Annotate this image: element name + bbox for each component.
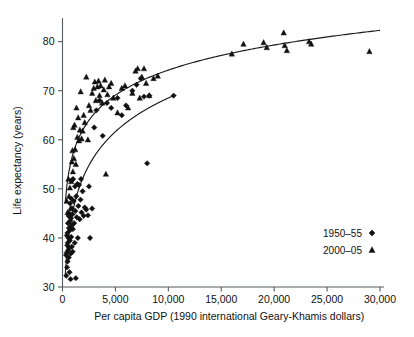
series-2000-05 bbox=[64, 30, 372, 215]
data-point-diamond bbox=[171, 93, 176, 98]
data-point-diamond bbox=[85, 213, 90, 218]
y-tick-label: 30 bbox=[43, 281, 55, 293]
data-point-triangle bbox=[122, 83, 127, 88]
data-point-diamond bbox=[80, 189, 85, 194]
data-point-triangle bbox=[141, 66, 146, 71]
scatter-chart-figure: 304050607080 05,00010,00015,00020,00025,… bbox=[0, 0, 414, 337]
data-point-diamond bbox=[75, 235, 80, 240]
data-point-triangle bbox=[84, 74, 89, 79]
data-point-triangle bbox=[86, 102, 91, 107]
data-point-triangle bbox=[281, 30, 286, 35]
data-point-triangle bbox=[98, 83, 103, 88]
data-point-triangle bbox=[85, 137, 90, 142]
data-point-diamond bbox=[73, 275, 78, 280]
data-point-triangle bbox=[89, 90, 94, 95]
data-point-triangle bbox=[284, 47, 289, 52]
data-point-diamond bbox=[144, 161, 149, 166]
data-point-diamond bbox=[134, 82, 139, 87]
chart-legend: 1950–552000–05 bbox=[323, 228, 375, 256]
data-point-triangle bbox=[74, 105, 79, 110]
x-tick-label: 25,000 bbox=[311, 293, 343, 305]
data-point-triangle bbox=[367, 48, 372, 53]
data-point-triangle bbox=[66, 193, 71, 198]
data-point-triangle bbox=[75, 115, 80, 120]
x-tick-label: 5,000 bbox=[102, 293, 128, 305]
legend-label-2000-05: 2000–05 bbox=[323, 245, 362, 256]
x-tick-label: 0 bbox=[60, 293, 66, 305]
data-point-triangle bbox=[88, 107, 93, 112]
data-point-triangle bbox=[103, 171, 108, 176]
data-point-triangle bbox=[261, 40, 266, 45]
data-point-diamond bbox=[76, 203, 81, 208]
data-point-diamond bbox=[104, 100, 109, 105]
data-point-triangle bbox=[67, 185, 72, 190]
y-axis: 304050607080 bbox=[43, 18, 63, 293]
data-point-diamond bbox=[100, 133, 105, 138]
data-point-triangle bbox=[137, 95, 142, 100]
data-point-triangle bbox=[72, 122, 77, 127]
data-point-diamond bbox=[119, 113, 124, 118]
x-axis: 05,00010,00015,00020,00025,00030,000 bbox=[60, 287, 397, 305]
legend-label-1950-55: 1950–55 bbox=[323, 228, 362, 239]
data-point-triangle bbox=[369, 247, 375, 253]
x-tick-label: 20,000 bbox=[258, 293, 290, 305]
data-point-diamond bbox=[141, 94, 146, 99]
x-tick-label: 15,000 bbox=[205, 293, 237, 305]
data-point-diamond bbox=[94, 108, 99, 113]
y-axis-title: Life expectancy (years) bbox=[11, 106, 23, 215]
data-point-triangle bbox=[241, 41, 246, 46]
y-tick-label: 70 bbox=[43, 85, 55, 97]
fit-curves bbox=[65, 30, 380, 277]
data-point-triangle bbox=[81, 112, 86, 117]
data-point-triangle bbox=[108, 80, 113, 85]
axis-titles: Per capita GDP (1990 international Geary… bbox=[11, 106, 364, 322]
data-point-diamond bbox=[89, 206, 94, 211]
data-point-triangle bbox=[78, 89, 83, 94]
data-point-triangle bbox=[105, 92, 110, 97]
data-point-diamond bbox=[86, 184, 91, 189]
data-point-triangle bbox=[143, 80, 148, 85]
y-tick-label: 80 bbox=[43, 35, 55, 47]
data-point-triangle bbox=[97, 93, 102, 98]
y-tick-label: 40 bbox=[43, 232, 55, 244]
x-tick-label: 30,000 bbox=[364, 293, 396, 305]
data-point-diamond bbox=[92, 125, 97, 130]
data-point-triangle bbox=[82, 120, 87, 125]
data-point-triangle bbox=[102, 77, 107, 82]
series-1950-55 bbox=[63, 76, 176, 282]
data-point-diamond bbox=[108, 105, 113, 110]
data-point-triangle bbox=[96, 78, 101, 83]
y-tick-label: 50 bbox=[43, 183, 55, 195]
data-point-triangle bbox=[115, 110, 120, 115]
fit-curve bbox=[65, 30, 380, 203]
data-point-diamond bbox=[369, 230, 375, 236]
data-point-diamond bbox=[78, 197, 83, 202]
chart-canvas: 304050607080 05,00010,00015,00020,00025,… bbox=[0, 0, 414, 337]
x-axis-title: Per capita GDP (1990 international Geary… bbox=[94, 310, 364, 322]
data-point-diamond bbox=[68, 276, 73, 281]
y-tick-label: 60 bbox=[43, 134, 55, 146]
x-tick-label: 10,000 bbox=[152, 293, 184, 305]
data-point-diamond bbox=[74, 194, 79, 199]
fit-curve bbox=[65, 96, 173, 278]
data-point-diamond bbox=[87, 235, 92, 240]
data-point-triangle bbox=[70, 169, 75, 174]
